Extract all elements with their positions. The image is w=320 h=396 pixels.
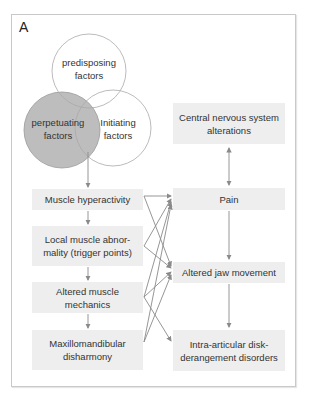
pain-box: Pain: [173, 188, 285, 210]
initiating-label: Initiating factors: [92, 116, 144, 142]
muscle-hyperactivity-box: Muscle hyperactivity: [32, 189, 143, 210]
intra-articular-disk-box: Intra-articular disk- derangement disord…: [173, 330, 285, 371]
altered-muscle-mechanics-box: Altered muscle mechanics: [32, 282, 143, 313]
altered-jaw-movement-box: Altered jaw movement: [173, 262, 285, 283]
cns-alterations-box: Central nervous system alterations: [173, 103, 285, 144]
perpetuating-label: perpetuating factors: [24, 116, 92, 142]
predisposing-label: predisposing factors: [55, 56, 123, 82]
maxillomandibular-disharmony-box: Maxillomandibular disharmony: [32, 330, 143, 370]
local-muscle-abnormality-box: Local muscle abnor- mality (trigger poin…: [32, 226, 143, 266]
